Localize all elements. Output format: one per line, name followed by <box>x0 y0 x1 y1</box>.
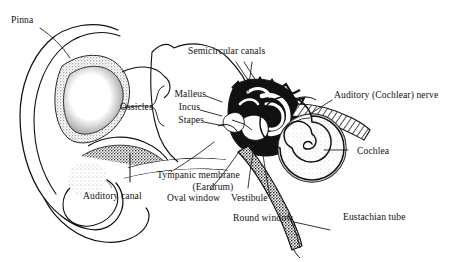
ear-anatomy-diagram: Pinna Semicircular canals Ossicles Malle… <box>0 0 466 262</box>
pinna-group <box>20 25 172 243</box>
round-window-marker <box>259 141 265 147</box>
label-malleus: Malleus <box>120 88 206 99</box>
label-pinna: Pinna <box>11 14 33 25</box>
label-oval-window: Oval window <box>167 192 220 203</box>
label-semicircular-canals: Semicircular canals <box>188 45 265 56</box>
label-vestibule: Vestibule <box>231 192 268 203</box>
leader-malleus <box>206 96 222 102</box>
label-incus: Incus <box>120 101 200 112</box>
label-eustachian-tube: Eustachian tube <box>343 211 406 222</box>
label-eardrum: (Eardrum) <box>157 181 269 192</box>
leader-eustachian <box>294 222 330 230</box>
label-cochlea: Cochlea <box>357 145 389 156</box>
leader-stapes <box>204 122 224 126</box>
label-round-window: Round window <box>233 212 293 223</box>
label-tympanic-membrane: Tympanic membrane <box>157 169 240 180</box>
label-stapes: Stapes <box>120 114 204 125</box>
label-auditory-canal: Auditory canal <box>83 190 142 201</box>
label-auditory-nerve: Auditory (Cochlear) nerve <box>334 89 438 100</box>
